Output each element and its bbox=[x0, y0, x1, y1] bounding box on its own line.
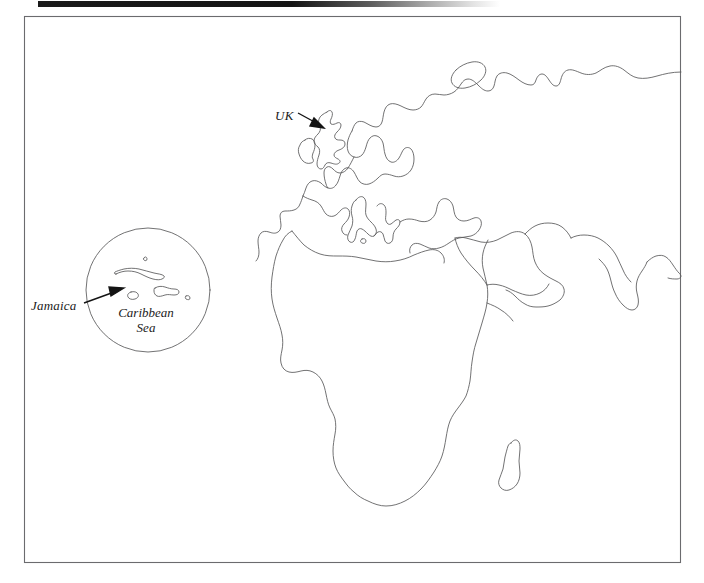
balkans-greece bbox=[374, 204, 400, 244]
great-britain bbox=[314, 111, 345, 170]
map-page: UK Jamaica Caribbean Sea bbox=[0, 0, 704, 583]
northern-eurasia-coast bbox=[352, 66, 681, 131]
east-asia-coast-stub bbox=[668, 277, 681, 279]
india-peninsula bbox=[599, 259, 647, 310]
turkey-black-sea bbox=[400, 199, 481, 253]
bay-of-bengal-coast bbox=[647, 255, 681, 276]
sicily-island bbox=[361, 239, 367, 244]
ireland bbox=[298, 138, 315, 163]
uk-arrow-head bbox=[310, 118, 324, 128]
world-map-outline bbox=[0, 0, 704, 583]
scandinavia bbox=[303, 131, 414, 196]
italy-peninsula bbox=[348, 197, 377, 243]
western-europe-coast bbox=[256, 196, 303, 261]
asia-south-coast bbox=[571, 235, 631, 282]
arabian-peninsula bbox=[455, 232, 564, 307]
hispaniola-island bbox=[154, 286, 179, 296]
iberian-peninsula bbox=[303, 196, 350, 235]
map-border bbox=[25, 17, 681, 563]
jamaica-island bbox=[128, 292, 139, 300]
iceland bbox=[451, 62, 486, 89]
bahamas-island bbox=[143, 257, 147, 261]
east-africa-coast bbox=[487, 303, 513, 321]
caribbean-sea-label-line1: Caribbean bbox=[106, 306, 186, 321]
puerto-rico-island bbox=[185, 296, 190, 300]
madagascar bbox=[499, 440, 520, 490]
persian-gulf-inlet bbox=[525, 223, 571, 238]
caribbean-sea-label-line2: Sea bbox=[106, 321, 186, 336]
baltic-denmark-coast bbox=[324, 157, 354, 188]
africa-mainland bbox=[271, 231, 488, 506]
horn-of-africa bbox=[487, 284, 549, 295]
jamaica-arrow-head bbox=[109, 287, 124, 296]
jamaica-label: Jamaica bbox=[31, 298, 76, 314]
caribbean-sea-label: Caribbean Sea bbox=[106, 306, 186, 336]
cuba-island bbox=[114, 268, 164, 280]
uk-label: UK bbox=[275, 108, 294, 124]
north-africa-coast bbox=[292, 231, 444, 263]
